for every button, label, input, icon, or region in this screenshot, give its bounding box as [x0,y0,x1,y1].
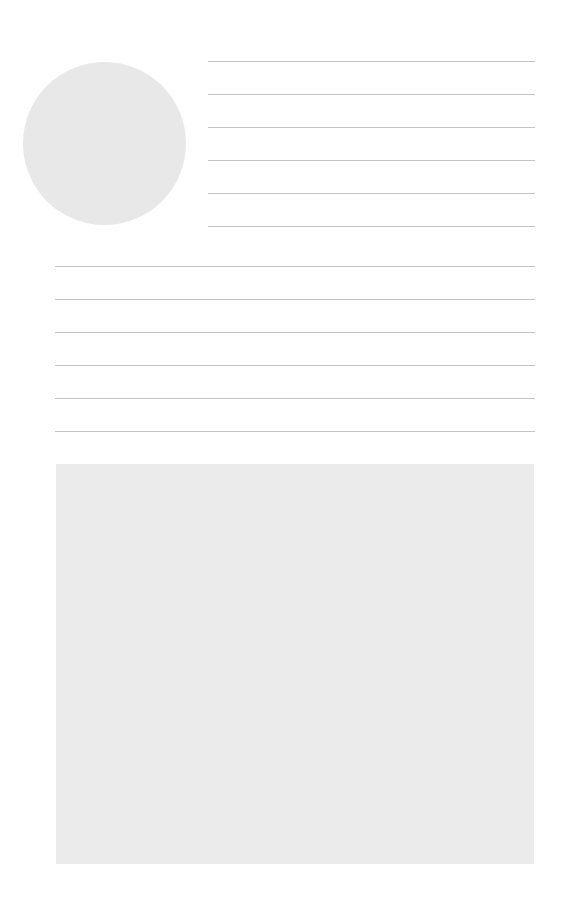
short-ruled-line-6 [208,226,535,227]
long-ruled-line-3 [55,332,535,333]
short-ruled-line-1 [208,61,535,62]
photo-circle-placeholder [23,62,186,225]
long-ruled-line-4 [55,365,535,366]
short-ruled-line-5 [208,193,535,194]
long-ruled-line-6 [55,431,535,432]
short-ruled-line-3 [208,127,535,128]
image-box-placeholder [56,464,534,864]
long-ruled-line-1 [55,266,535,267]
long-ruled-line-5 [55,398,535,399]
short-ruled-line-2 [208,94,535,95]
long-ruled-line-2 [55,299,535,300]
short-ruled-line-4 [208,160,535,161]
